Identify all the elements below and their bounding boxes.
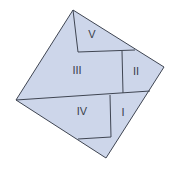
- dissection-diagram: V III II IV I: [0, 0, 174, 169]
- label-v: V: [88, 28, 96, 40]
- label-ii: II: [133, 65, 139, 77]
- label-iii: III: [72, 64, 81, 76]
- label-iv: IV: [77, 105, 88, 117]
- label-i: I: [121, 106, 124, 118]
